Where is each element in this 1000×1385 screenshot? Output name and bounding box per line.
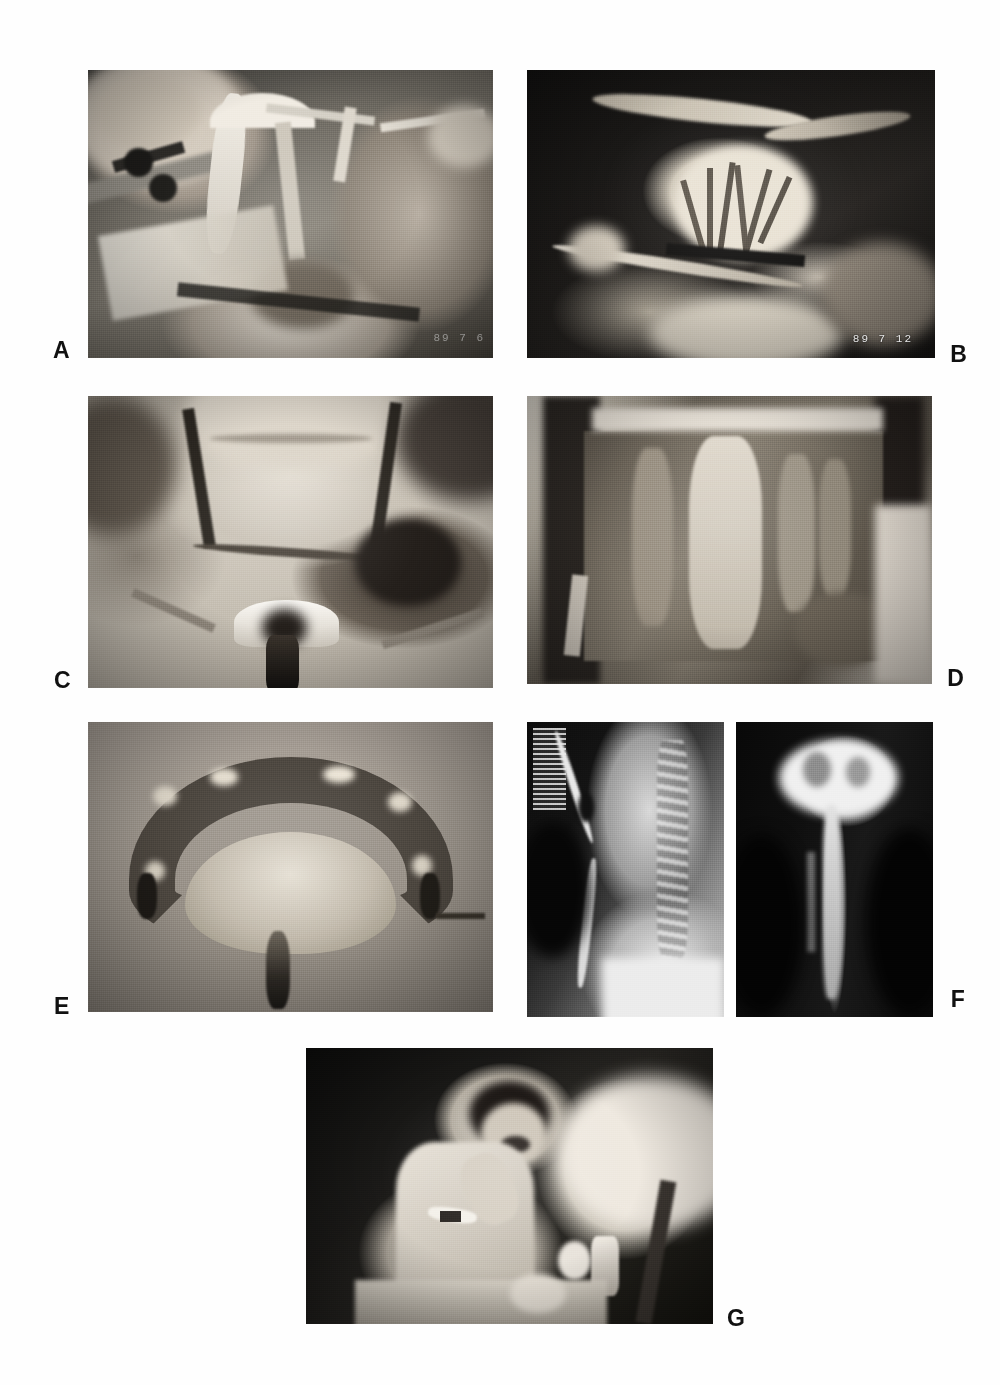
panel-c[interactable]: C <box>88 396 493 688</box>
radiograph-frontal-view <box>736 722 933 1017</box>
vascular-pedicle <box>266 931 290 1009</box>
figure-sheet: 89 7 6 A 89 7 12 B <box>0 0 1000 1385</box>
radiograph-lateral-view <box>527 722 724 1017</box>
panel-e-label: E <box>54 995 70 1018</box>
panel-a-photograph: 89 7 6 <box>88 70 493 358</box>
panel-g[interactable]: G <box>306 1048 713 1324</box>
panel-a[interactable]: 89 7 6 A <box>88 70 493 358</box>
panel-b[interactable]: 89 7 12 B <box>527 70 935 358</box>
panel-d[interactable]: D <box>527 396 932 684</box>
panel-c-label: C <box>54 669 71 692</box>
panel-c-photograph <box>88 396 493 688</box>
panel-a-label: A <box>53 339 70 362</box>
panel-b-datestamp: 89 7 12 <box>853 333 913 345</box>
panel-f-label: F <box>951 988 965 1011</box>
panel-b-photograph: 89 7 12 <box>527 70 935 358</box>
panel-e[interactable]: E <box>88 722 493 1012</box>
panel-g-label: G <box>727 1307 745 1330</box>
panel-d-label: D <box>947 667 964 690</box>
panel-g-photograph <box>306 1048 713 1324</box>
cup <box>558 1241 591 1280</box>
panel-a-datestamp: 89 7 6 <box>433 332 485 344</box>
panel-d-photograph <box>527 396 932 684</box>
food-item <box>510 1274 567 1313</box>
cervical-spine <box>657 740 689 958</box>
panel-f-radiograph-pair <box>527 722 933 1017</box>
panel-f[interactable]: F <box>527 722 933 1017</box>
panel-b-label: B <box>950 343 967 366</box>
pillow <box>558 1076 713 1231</box>
meal-tray <box>355 1280 607 1324</box>
panel-e-photograph <box>88 722 493 1012</box>
